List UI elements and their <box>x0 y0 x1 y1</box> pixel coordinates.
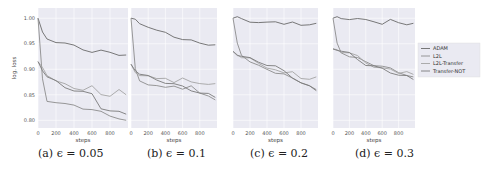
x-tick-label: 400 <box>361 130 371 136</box>
x-axis-label: steps <box>76 137 91 144</box>
x-tick-label: 200 <box>345 130 355 136</box>
legend-label: L2L <box>433 53 442 59</box>
x-tick-label: 400 <box>262 130 272 136</box>
x-tick-label: 0 <box>231 130 234 136</box>
x-tick-label: 200 <box>143 130 153 136</box>
caption-d: (d) ϵ = 0.3 <box>355 147 414 160</box>
x-tick-label: 800 <box>394 130 404 136</box>
x-tick-label: 800 <box>296 130 306 136</box>
x-tick-label: 0 <box>36 130 39 136</box>
y-tick-label: 0.95 <box>24 40 35 46</box>
chart-panel-2: 0200400600800steps <box>231 8 318 144</box>
y-axis-label: log. loss <box>11 57 18 80</box>
y-tick-label: 1.00 <box>24 15 35 21</box>
x-tick-label: 600 <box>178 130 188 136</box>
x-tick-label: 800 <box>195 130 205 136</box>
x-tick-label: 400 <box>69 130 79 136</box>
x-axis-label: steps <box>268 137 283 144</box>
x-tick-label: 600 <box>279 130 289 136</box>
chart-panel-0: 0200400600800steps0.800.850.900.951.00lo… <box>11 8 128 144</box>
caption-b: (b) ϵ = 0.1 <box>147 147 206 160</box>
x-axis-label: steps <box>167 137 182 144</box>
x-tick-label: 0 <box>129 130 132 136</box>
x-tick-label: 0 <box>331 130 334 136</box>
x-tick-label: 600 <box>87 130 97 136</box>
legend-label: Transfer-NOT <box>432 68 466 74</box>
y-tick-label: 0.90 <box>24 66 35 72</box>
x-tick-label: 800 <box>105 130 115 136</box>
x-axis-label: steps <box>367 137 382 144</box>
chart-panel-3: 0200400600800steps <box>331 8 415 144</box>
caption-a: (a) ϵ = 0.05 <box>38 147 104 160</box>
figure-panels: 0200400600800steps0.800.850.900.951.00lo… <box>0 0 484 145</box>
y-tick-label: 0.80 <box>24 117 35 123</box>
legend-label: L2L-Transfer <box>433 60 464 66</box>
legend: ADAML2LL2L-TransferTransfer-NOT <box>418 43 480 77</box>
x-tick-label: 600 <box>377 130 387 136</box>
x-tick-label: 400 <box>161 130 171 136</box>
x-tick-label: 200 <box>245 130 255 136</box>
chart-panel-1: 0200400600800steps <box>129 8 217 144</box>
y-tick-label: 0.85 <box>24 92 35 98</box>
x-tick-label: 200 <box>51 130 61 136</box>
caption-c: (c) ϵ = 0.2 <box>250 147 308 160</box>
legend-label: ADAM <box>433 45 448 51</box>
